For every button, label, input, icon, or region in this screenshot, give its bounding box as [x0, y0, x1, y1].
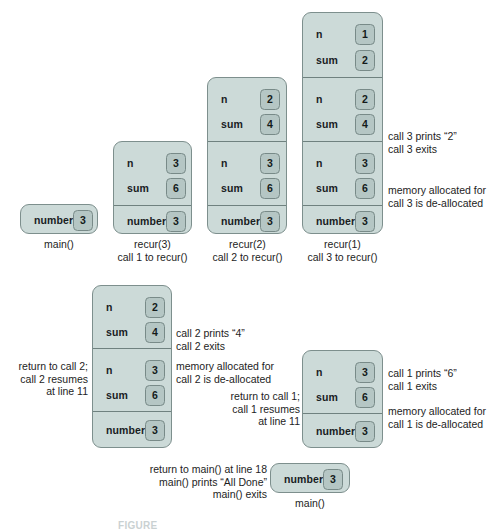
- variable-row: n 2: [303, 88, 382, 110]
- variable-row: n 3: [93, 359, 171, 381]
- activation-record: number 3: [303, 414, 382, 448]
- variable-value-chip: 6: [145, 385, 165, 406]
- variable-label: n: [316, 93, 323, 105]
- frame-caption-main-initial: main(): [20, 238, 98, 251]
- variable-value-chip: 3: [355, 211, 375, 232]
- variable-value-chip: 2: [145, 297, 165, 318]
- note-return-to-call2: return to call 2; call 2 resumes at line…: [0, 360, 88, 398]
- note-call3-prints: call 3 prints “2” call 3 exits: [388, 130, 457, 155]
- variable-row: n 2: [93, 296, 171, 318]
- figure-caption: FIGURE: [118, 520, 158, 531]
- variable-value-chip: 3: [166, 211, 186, 232]
- variable-row: n 1: [303, 23, 382, 45]
- activation-record: n 3 sum 6: [114, 142, 191, 206]
- variable-row: n 3: [303, 152, 382, 174]
- variable-value-chip: 4: [260, 114, 280, 135]
- activation-record: number 3: [271, 464, 349, 493]
- frame-caption-recur-2: recur(2) call 2 to recur(): [195, 238, 300, 263]
- activation-record: n 3 sum 6: [303, 142, 382, 206]
- activation-record: n 3 sum 6: [303, 351, 382, 414]
- stack-frame-after-call3-return: n 2 sum 4 n 3 sum 6 number 3: [92, 285, 172, 448]
- stack-frame-recur-2: n 2 sum 4 n 3 sum 6 number 3: [207, 77, 287, 234]
- activation-record: number 3: [21, 205, 97, 234]
- activation-record: n 2 sum 4: [93, 286, 171, 349]
- frame-caption-main-final: main(): [270, 497, 350, 510]
- variable-value-chip: 2: [355, 89, 375, 110]
- variable-value-chip: 3: [355, 362, 375, 383]
- variable-value-chip: 3: [73, 210, 93, 231]
- variable-value-chip: 3: [355, 153, 375, 174]
- activation-record: number 3: [303, 206, 382, 234]
- variable-label: n: [221, 93, 228, 105]
- variable-row: sum 4: [93, 321, 171, 343]
- variable-row: sum 4: [208, 113, 286, 135]
- variable-label: number: [316, 425, 355, 437]
- stack-frame-recur-1: n 1 sum 2 n 2 sum 4 n 3 sum: [302, 12, 383, 234]
- note-call1-deallocated: memory allocated for call 1 is de-alloca…: [388, 405, 486, 430]
- variable-label: sum: [106, 389, 128, 401]
- variable-value-chip: 3: [145, 420, 165, 441]
- variable-value-chip: 6: [260, 178, 280, 199]
- stack-frame-after-call2-return: n 3 sum 6 number 3: [302, 350, 383, 448]
- note-call1-prints: call 1 prints “6” call 1 exits: [388, 367, 457, 392]
- variable-value-chip: 3: [166, 153, 186, 174]
- variable-label: sum: [316, 54, 338, 66]
- variable-row: n 3: [303, 361, 382, 383]
- variable-value-chip: 3: [145, 360, 165, 381]
- variable-label: n: [316, 28, 323, 40]
- variable-label: sum: [316, 182, 338, 194]
- activation-record: number 3: [208, 206, 286, 234]
- variable-label: sum: [316, 391, 338, 403]
- variable-value-chip: 1: [355, 24, 375, 45]
- variable-label: n: [106, 301, 113, 313]
- activation-record: n 3 sum 6: [93, 349, 171, 412]
- stack-frame-main-final: number 3: [270, 463, 350, 493]
- note-return-to-call1: return to call 1; call 1 resumes at line…: [190, 390, 300, 428]
- note-return-to-main: return to main() at line 18 main() print…: [135, 463, 267, 501]
- variable-row: sum 6: [303, 386, 382, 408]
- variable-label: sum: [106, 326, 128, 338]
- variable-row: number 3: [303, 210, 382, 232]
- variable-label: sum: [316, 118, 338, 130]
- variable-value-chip: 3: [355, 421, 375, 442]
- variable-row: sum 6: [114, 177, 191, 199]
- activation-record: number 3: [114, 206, 191, 234]
- activation-record: n 2 sum 4: [208, 78, 286, 142]
- variable-value-chip: 4: [145, 322, 165, 343]
- variable-label: number: [284, 473, 323, 485]
- variable-row: n 2: [208, 88, 286, 110]
- activation-record: number 3: [93, 412, 171, 448]
- note-call2-prints: call 2 prints “4” call 2 exits: [176, 327, 245, 352]
- variable-row: n 3: [114, 152, 191, 174]
- note-call3-deallocated: memory allocated for call 3 is de-alloca…: [388, 184, 486, 209]
- variable-label: n: [127, 157, 134, 169]
- variable-value-chip: 6: [355, 387, 375, 408]
- variable-row: sum 6: [208, 177, 286, 199]
- variable-row: number 3: [21, 209, 97, 231]
- variable-value-chip: 3: [260, 153, 280, 174]
- variable-row: number 3: [303, 420, 382, 442]
- variable-label: number: [127, 215, 166, 227]
- note-call2-deallocated: memory allocated for call 2 is de-alloca…: [176, 360, 274, 385]
- variable-value-chip: 3: [260, 211, 280, 232]
- stack-frame-main-initial: number 3: [20, 204, 98, 234]
- stack-frame-recur-3: n 3 sum 6 number 3: [113, 141, 192, 234]
- variable-value-chip: 2: [260, 89, 280, 110]
- variable-row: number 3: [271, 468, 349, 490]
- variable-value-chip: 6: [166, 178, 186, 199]
- frame-caption-recur-1: recur(1) call 3 to recur(): [290, 238, 395, 263]
- variable-row: n 3: [208, 152, 286, 174]
- variable-label: n: [316, 366, 323, 378]
- activation-record: n 1 sum 2: [303, 13, 382, 78]
- activation-record: n 2 sum 4: [303, 78, 382, 142]
- variable-row: number 3: [208, 210, 286, 232]
- frame-caption-recur-3: recur(3) call 1 to recur(): [100, 238, 205, 263]
- variable-row: number 3: [114, 210, 191, 232]
- variable-label: number: [106, 424, 145, 436]
- variable-row: sum 4: [303, 113, 382, 135]
- variable-label: sum: [127, 182, 149, 194]
- variable-label: number: [316, 215, 355, 227]
- variable-value-chip: 4: [355, 114, 375, 135]
- variable-row: sum 6: [93, 384, 171, 406]
